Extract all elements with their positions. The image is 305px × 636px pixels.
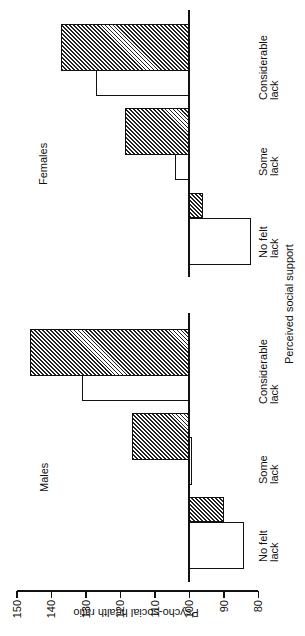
value-axis-tick	[120, 591, 122, 598]
males-open-bar	[189, 522, 244, 569]
value-axis-tick	[223, 591, 225, 598]
value-axis-tick-label: 150	[11, 600, 23, 630]
rotated-chart: 8090100110120130140150 Males Females No …	[0, 0, 305, 636]
females-cat-some-lack: Some lack	[258, 147, 280, 176]
females-cat-no-felt-lack: No felt lack	[258, 226, 280, 258]
value-axis-tick	[51, 591, 53, 598]
females-title: Females	[37, 143, 49, 185]
value-axis-tick	[16, 591, 18, 598]
value-axis-tick	[189, 591, 191, 598]
males-cat-no-felt-lack: No felt lack	[258, 530, 280, 562]
y-axis-title: Psycho-social health ratio	[73, 607, 198, 619]
x-axis-title: Perceived social support	[283, 244, 295, 364]
females-hatch-bar	[189, 193, 203, 218]
females-cat-considerable-lack: Considerable lack	[258, 35, 280, 100]
females-hatch-bar	[125, 108, 189, 155]
value-axis-line	[17, 591, 258, 593]
value-axis-tick-label: 90	[218, 600, 230, 630]
males-hatch-bar	[30, 329, 189, 376]
value-axis-tick	[154, 591, 156, 598]
males-hatch-bar	[189, 497, 224, 522]
males-cat-considerable-lack: Considerable lack	[258, 339, 280, 404]
females-open-bar	[189, 218, 251, 265]
males-cat-some-lack: Some lack	[258, 455, 280, 484]
males-open-bar	[189, 437, 192, 485]
value-axis-tick	[258, 591, 260, 598]
males-hatch-bar	[132, 413, 189, 460]
value-axis-tick	[85, 591, 87, 598]
value-axis-tick-label: 140	[45, 600, 57, 630]
males-title: Males	[38, 463, 50, 492]
value-axis-tick-label: 80	[252, 600, 264, 630]
females-hatch-bar	[61, 24, 189, 71]
